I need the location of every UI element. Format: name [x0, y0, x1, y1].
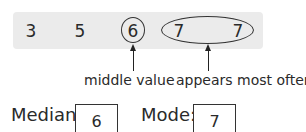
median-answer-value: 6	[75, 112, 118, 131]
median-annotation: middle value	[84, 72, 175, 88]
value-2: 5	[70, 21, 90, 41]
mode-arrow-head-icon	[205, 44, 211, 51]
mode-annotation: appears most often	[176, 72, 306, 88]
median-result-label: Median:	[11, 104, 83, 126]
mode-result-label: Mode:	[141, 104, 196, 126]
mode-answer-value: 7	[193, 112, 236, 131]
mode-arrow-shaft	[208, 49, 209, 71]
value-1: 3	[21, 21, 41, 41]
mode-ellipse	[161, 16, 254, 44]
median-arrow-head-icon	[130, 44, 136, 51]
median-circle	[121, 17, 145, 43]
median-arrow-shaft	[133, 49, 134, 71]
